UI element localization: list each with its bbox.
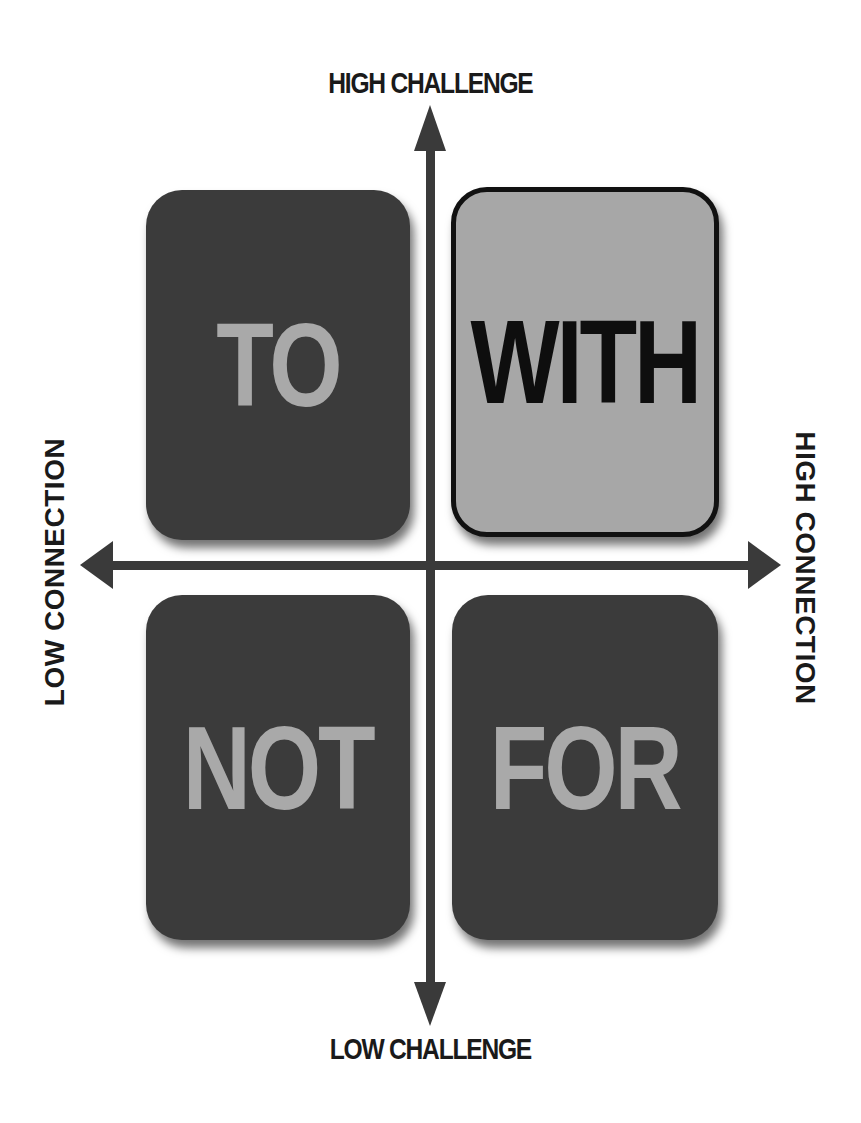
axis-label-high-challenge: HIGH CHALLENGE (77, 66, 783, 100)
quadrant-not: NOT (146, 595, 410, 940)
arrow-left-icon (80, 541, 113, 589)
axis-label-low-challenge: LOW CHALLENGE (77, 1032, 783, 1066)
axis-label-high-connection: HIGH CONNECTION (789, 431, 821, 705)
arrow-down-icon (414, 982, 446, 1026)
axis-label-low-connection: LOW CONNECTION (39, 438, 71, 706)
quadrant-label: FOR (490, 709, 680, 827)
axes (0, 0, 861, 1123)
quadrant-label: TO (216, 306, 339, 424)
quadrant-label: WITH (471, 303, 699, 421)
quadrant-with: WITH (451, 187, 719, 537)
quadrant-label: NOT (183, 709, 373, 827)
arrow-up-icon (414, 105, 446, 151)
quadrant-diagram: TO WITH NOT FOR HIGH CHALLENGE LOW CHALL… (0, 0, 861, 1123)
quadrant-for: FOR (452, 595, 718, 940)
arrow-right-icon (748, 541, 781, 589)
quadrant-to: TO (146, 190, 410, 540)
